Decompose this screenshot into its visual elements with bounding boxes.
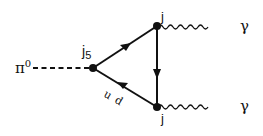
photon-label-top: γ: [240, 17, 249, 35]
quark-label-u: u: [101, 87, 114, 102]
quark-label-d: d: [112, 93, 125, 108]
vertex-top: [153, 22, 161, 30]
vertex-bottom: [153, 103, 161, 111]
fermion-line-lower: [93, 68, 157, 107]
vertex-left-label: j5: [81, 43, 91, 61]
vertex-bottom-label: j: [160, 111, 164, 126]
vertex-left: [89, 64, 97, 72]
feynman-diagram: π0 j5 j j γ γ u d: [0, 0, 263, 136]
photon-label-bottom: γ: [240, 97, 249, 115]
arrow-vertical-icon: [153, 69, 161, 79]
photon-wavy-line-top: [158, 25, 208, 29]
pion-label: π0: [15, 58, 31, 77]
vertex-top-label: j: [160, 9, 164, 24]
photon-wavy-line-bottom: [158, 105, 208, 109]
